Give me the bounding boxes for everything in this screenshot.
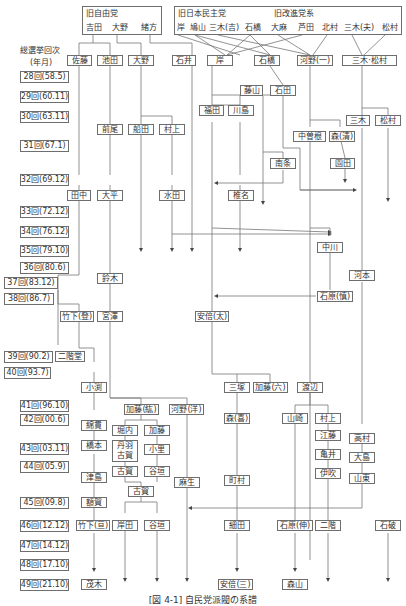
faction-yamasaki: 山崎: [282, 413, 308, 424]
faction-abe-shintaro: 安倍(太): [195, 311, 229, 322]
election-28: 28回(58.5): [20, 71, 69, 83]
faction-watanabe: 渡辺: [297, 382, 323, 393]
election-40: 40回(93.7): [4, 367, 51, 379]
faction-eto: 江藤: [315, 430, 341, 441]
faction-koga: 古賀: [112, 466, 138, 477]
faction-funada: 船田: [128, 124, 154, 135]
faction-miyazawa: 宮澤: [97, 311, 123, 322]
faction-shiina: 椎名: [228, 190, 254, 201]
faction-mizuta: 水田: [159, 190, 185, 201]
faction-kato-mutsuki: 加藤(六): [253, 382, 288, 393]
election-29: 29回(60.11): [20, 91, 69, 103]
faction-nakasone: 中曽根: [293, 131, 326, 142]
faction-takeshita-wataru: 竹下(亘): [76, 520, 110, 531]
election-46: 46回(12.12): [20, 520, 69, 532]
faction-ono: 大野: [128, 55, 154, 66]
faction-obuchi: 小渕: [81, 382, 107, 393]
faction-hosoda: 細田: [224, 520, 250, 531]
faction-murakami-2: 村上: [315, 413, 341, 424]
election-39: 39回(90.2): [4, 351, 53, 363]
faction-tanaka: 田中: [67, 190, 91, 201]
faction-horiuchi: 堀内: [112, 425, 138, 436]
faction-tsushima: 津島: [81, 472, 107, 483]
election-34: 34回(76.12): [20, 226, 69, 238]
election-45: 45回(09.8): [20, 497, 69, 509]
election-32: 32回(69.12): [20, 174, 69, 186]
faction-ishibashi: 石橋: [254, 55, 280, 66]
faction-tanigaki: 谷垣: [144, 466, 170, 477]
faction-moriyama: 森山: [282, 579, 308, 590]
election-42: 42回(00.6): [20, 414, 69, 426]
election-47: 47回(14.12): [20, 540, 69, 552]
faction-ishihara-shintaro: 石原(慎): [317, 291, 353, 302]
faction-ishiba: 石破: [375, 520, 401, 531]
faction-nukaga: 額賀: [81, 497, 107, 508]
faction-kishi: 岸: [207, 55, 233, 66]
faction-hashimoto: 橋本: [81, 440, 107, 451]
faction-tanigaki-2: 谷垣: [144, 520, 170, 531]
election-49: 49回(21.10): [20, 579, 69, 591]
faction-ishii: 石井: [172, 55, 196, 66]
faction-kosato: 小里: [144, 444, 170, 455]
faction-kamei: 亀井: [315, 449, 341, 460]
election-35: 35回(79.10): [20, 245, 69, 257]
faction-fujiyama: 藤山: [240, 85, 263, 96]
faction-watanuki: 綿貫: [81, 420, 107, 431]
faction-niwa-koga: 丹羽 古賀: [112, 440, 138, 462]
election-38: 38回(86.7): [4, 293, 54, 305]
faction-kato-2: 加藤: [144, 425, 170, 436]
faction-sonoda: 園田: [330, 158, 355, 169]
faction-maeo: 前尾: [97, 124, 123, 135]
faction-suzuki: 鈴木: [97, 273, 123, 284]
faction-oshima: 大島: [349, 452, 375, 463]
faction-nanjo: 南条: [270, 158, 296, 169]
faction-fukuda: 福田: [199, 105, 224, 116]
faction-ishida: 石田: [270, 85, 296, 96]
election-31: 31回(67.1): [20, 140, 69, 152]
election-44: 44回(05.9): [20, 461, 69, 473]
koga-label: 古賀: [117, 451, 133, 461]
faction-takamura: 高村: [349, 433, 375, 444]
faction-miki: 三木: [346, 115, 370, 126]
election-48: 48回(17.10): [20, 559, 69, 571]
election-43: 43回(03.11): [20, 443, 69, 455]
faction-motegi: 茂木: [81, 579, 107, 590]
election-37: 37回(83.12): [4, 277, 58, 289]
faction-miki-matsumura: 三木·松村: [342, 55, 397, 66]
faction-kishida: 岸田: [112, 520, 138, 531]
faction-mori-yoshiro: 森(喜): [224, 413, 250, 424]
faction-yamato: 山東: [349, 473, 375, 484]
election-41: 41回(96.10): [20, 400, 69, 412]
faction-kono-yohei: 河野(洋): [169, 404, 204, 415]
faction-ikeda: 池田: [97, 55, 123, 66]
faction-machimura: 町村: [224, 475, 250, 486]
election-36: 36回(80.6): [20, 262, 69, 274]
figure-caption: [図 4-1] 自民党派閥の系譜: [0, 593, 406, 606]
faction-komoto: 河本: [349, 270, 375, 281]
faction-sato: 佐藤: [67, 55, 92, 66]
faction-nakagawa: 中川: [317, 242, 343, 253]
faction-kawashima: 川島: [228, 105, 254, 116]
faction-mori-kiyoshi: 森(清): [329, 131, 355, 142]
election-30: 30回(63.11): [20, 111, 69, 123]
faction-takeshita-noboru: 竹下(登): [60, 311, 94, 322]
faction-ohira: 大平: [97, 190, 123, 201]
faction-kono-ichiro: 河野(一): [297, 55, 333, 66]
faction-aso: 麻生: [174, 477, 200, 488]
faction-kato-koichi: 加藤(紘): [124, 404, 159, 415]
faction-koga-2: 古賀: [128, 486, 154, 497]
faction-matsumura: 松村: [375, 115, 401, 126]
faction-mitsuzuka: 三塚: [224, 382, 250, 393]
faction-ishihara-nobuteru: 石原(伸): [277, 520, 313, 531]
faction-nikaido: 二階堂: [55, 351, 85, 362]
election-33: 33回(72.12): [20, 206, 69, 218]
niwa-label: 丹羽: [117, 441, 133, 451]
faction-ibuki: 伊吹: [315, 468, 341, 479]
faction-abe-shinzo: 安倍(三): [218, 579, 253, 590]
faction-nikai: 二階: [315, 520, 341, 531]
faction-murakami: 村上: [159, 124, 185, 135]
